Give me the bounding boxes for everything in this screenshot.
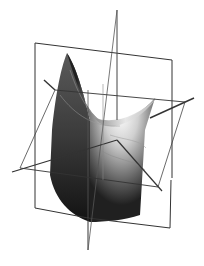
surface-figure (0, 0, 204, 266)
